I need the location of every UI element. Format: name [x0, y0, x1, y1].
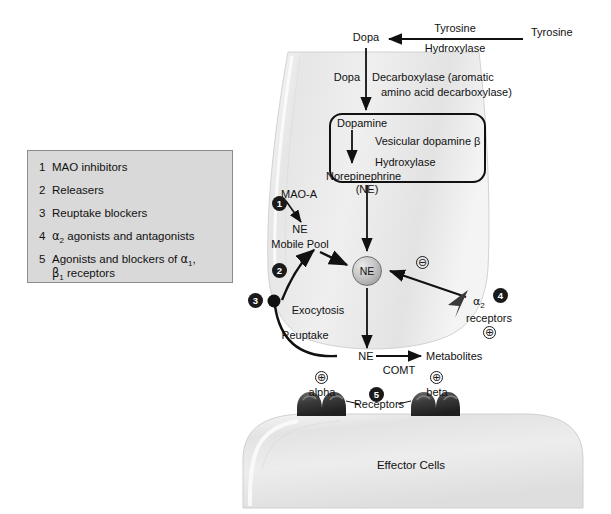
legend-label-5: Agonists and blockers of — [52, 253, 177, 265]
ne-mobile-label: NE — [292, 223, 307, 236]
reuptake-transporter-dot — [268, 295, 281, 308]
legend-item-5-line2: β1 receptors — [52, 267, 115, 284]
legend-number-5: 5 — [39, 253, 52, 266]
norepinephrine-label: Norepinephrine — [326, 170, 401, 183]
badge-1-mao-inhibitors: 1 — [272, 196, 287, 211]
badge-3-reuptake-blockers: 3 — [248, 293, 263, 308]
vesicular-dopamine-beta-hydroxylase-line2: Hydroxylase — [375, 156, 436, 169]
effector-cells-label: Effector Cells — [377, 459, 445, 472]
legend-number-1: 1 — [39, 161, 52, 174]
dopa-decarboxylase-line1: Decarboxylase (aromatic — [372, 71, 494, 84]
legend-alpha-subscript-5: 1 — [188, 259, 192, 268]
tyrosine-hydroxylase-line2: Hydroxylase — [425, 42, 486, 55]
legend-item-1: 1MAO inhibitors — [39, 161, 127, 174]
legend-alpha-symbol-5: α — [181, 252, 189, 266]
alpha-receptor-label: alpha — [309, 386, 336, 399]
legend-alpha-subscript-4: 2 — [60, 236, 64, 245]
dopa-decarboxylase-line2: amino acid decarboxylase) — [381, 86, 512, 99]
vesicular-dopamine-beta-hydroxylase-line1: Vesicular dopamine β — [375, 135, 480, 148]
metabolites-label: Metabolites — [426, 350, 482, 363]
receptors-label: Receptors — [354, 398, 404, 411]
legend-label-2: Releasers — [52, 184, 104, 196]
ne-vesicle-label: NE — [360, 265, 375, 277]
legend-item-4: 4α2 agonists and antagonists — [39, 230, 194, 247]
tyrosine-external-label: Tyrosine — [531, 26, 573, 39]
dopamine-label: Dopamine — [337, 117, 387, 130]
alpha-receptor-positive-sign: ⊕ — [315, 371, 328, 384]
legend-label-4: agonists and antagonists — [67, 230, 194, 242]
reuptake-label: Reuptake — [281, 329, 328, 342]
legend-number-3: 3 — [39, 207, 52, 220]
autoreceptor-positive-sign: ⊕ — [483, 326, 496, 339]
legend-label-5-line2: receptors — [67, 267, 115, 279]
dopa-decarboxylase-word1: Dopa — [334, 71, 360, 84]
legend-beta-subscript-5: 1 — [59, 273, 63, 282]
autoreceptor-receptors-label: receptors — [466, 312, 512, 325]
diagram-canvas: NE 1MAO inhibitors 2Releasers 3Reuptake … — [0, 0, 611, 514]
mao-a-label: MAO-A — [281, 188, 317, 201]
norepinephrine-abbrev-label: (NE) — [356, 183, 379, 196]
legend-label-1: MAO inhibitors — [52, 161, 127, 173]
legend-label-3: Reuptake blockers — [52, 207, 147, 219]
legend-alpha-symbol-4: α — [52, 229, 60, 243]
beta-receptor-label: beta — [426, 386, 447, 399]
mobile-pool-label: Mobile Pool — [271, 238, 328, 251]
badge-2-releasers: 2 — [272, 263, 287, 278]
autoreceptor-alpha-symbol: α2 — [473, 295, 485, 313]
legend-panel: 1MAO inhibitors 2Releasers 3Reuptake blo… — [27, 150, 233, 283]
legend-number-4: 4 — [39, 230, 52, 243]
legend-item-3: 3Reuptake blockers — [39, 207, 147, 220]
cleft-ne-label: NE — [358, 350, 373, 363]
autoreceptor-negative-sign: ⊖ — [416, 256, 429, 269]
dopa-label: Dopa — [353, 31, 379, 44]
legend-number-2: 2 — [39, 184, 52, 197]
legend-item-2: 2Releasers — [39, 184, 104, 197]
tyrosine-hydroxylase-line1: Tyrosine — [434, 22, 476, 35]
exocytosis-label: Exocytosis — [292, 304, 345, 317]
beta-receptor-positive-sign: ⊕ — [430, 371, 443, 384]
ne-vesicle-sphere: NE — [352, 256, 382, 286]
comt-label: COMT — [383, 364, 415, 377]
badge-4-alpha2-agonists: 4 — [493, 288, 508, 303]
